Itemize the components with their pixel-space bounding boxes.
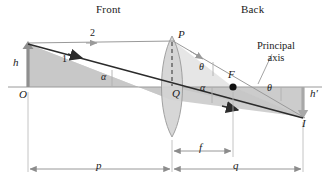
dimension-label-f: f xyxy=(199,142,202,154)
angle-label-theta-lens: θ xyxy=(199,62,204,73)
point-label-P: P xyxy=(178,29,185,41)
height-label-h: h xyxy=(13,57,19,69)
ray-label-1: 1 xyxy=(62,54,67,65)
ray-2-incident xyxy=(28,41,175,43)
dimension-label-q: q xyxy=(233,160,239,172)
principal-axis-label: Principal axis xyxy=(247,40,305,64)
ray-diagram-figure: Front Back Principal axis P Q O F I 2 1 … xyxy=(0,0,326,181)
dimension-label-p: p xyxy=(96,160,102,172)
height-label-h-prime: h′ xyxy=(310,88,318,100)
angle-label-alpha-left: α xyxy=(101,72,106,83)
focal-point-dot xyxy=(229,83,236,90)
angle-label-alpha-right: α xyxy=(200,83,205,94)
ray-label-2: 2 xyxy=(90,28,95,39)
heading-back: Back xyxy=(241,4,264,16)
diagram-canvas xyxy=(0,0,326,181)
point-label-Q: Q xyxy=(172,88,180,100)
principal-axis-label-line1: Principal xyxy=(257,40,295,51)
heading-front: Front xyxy=(96,4,121,16)
point-label-I: I xyxy=(302,118,306,130)
angle-label-theta-axis: θ xyxy=(267,83,272,94)
principal-axis-label-line2: axis xyxy=(268,52,285,63)
point-label-O: O xyxy=(19,89,27,101)
point-label-F: F xyxy=(228,69,235,81)
